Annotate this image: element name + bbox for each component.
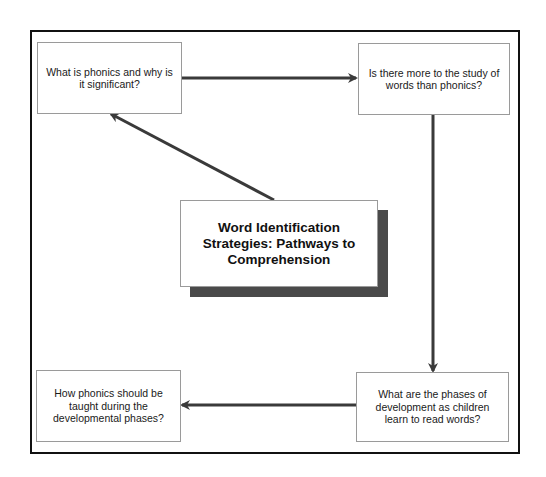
center-title-text: Word Identification Strategies: Pathways… [191,220,367,268]
node-bottom-left-text: How phonics should be taught during the … [43,387,174,425]
arrow-center-to-topleft [111,114,274,200]
node-top-left-text: What is phonics and why is it significan… [44,66,175,91]
node-bottom-left: How phonics should be taught during the … [36,370,181,442]
node-bottom-right-text: What are the phases of development as ch… [363,388,502,426]
node-bottom-right: What are the phases of development as ch… [356,372,509,442]
node-top-right-text: Is there more to the study of words than… [365,67,503,92]
node-top-left: What is phonics and why is it significan… [37,42,182,114]
node-top-right: Is there more to the study of words than… [358,43,510,115]
center-title-box: Word Identification Strategies: Pathways… [180,200,378,287]
